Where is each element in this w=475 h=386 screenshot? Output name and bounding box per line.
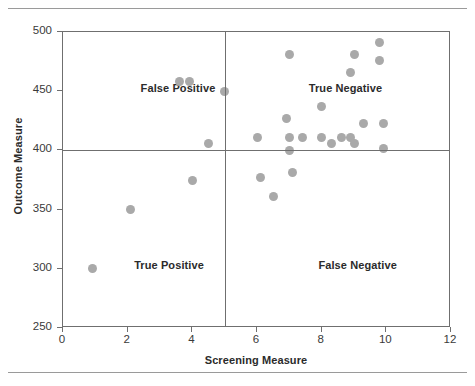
data-point — [126, 205, 135, 214]
y-tick-label-450: 450 — [0, 83, 52, 95]
quadrant-label-true-positive: True Positive — [134, 259, 204, 271]
data-point — [337, 133, 346, 142]
scatter-plot-figure: Outcome Measure Screening Measure 250300… — [0, 0, 475, 386]
x-tick-label-0: 0 — [42, 333, 82, 345]
x-tick-label-6: 6 — [236, 333, 276, 345]
x-tick-12 — [450, 327, 451, 332]
plot-area: False PositiveTrue NegativeTrue Positive… — [62, 31, 450, 327]
data-point — [375, 38, 384, 47]
top-divider-rule — [8, 8, 467, 9]
x-tick-8 — [321, 327, 322, 332]
data-point — [285, 50, 294, 59]
data-point — [350, 50, 359, 59]
data-point — [346, 68, 355, 77]
data-point — [88, 264, 97, 273]
data-point — [317, 102, 326, 111]
data-point — [327, 139, 336, 148]
data-point — [298, 133, 307, 142]
data-point — [288, 168, 297, 177]
quadrant-label-false-negative: False Negative — [318, 259, 396, 271]
data-point — [204, 139, 213, 148]
data-point — [359, 119, 368, 128]
x-tick-6 — [256, 327, 257, 332]
quadrant-label-true-negative: True Negative — [309, 82, 382, 94]
data-point — [188, 176, 197, 185]
x-tick-label-8: 8 — [301, 333, 341, 345]
x-tick-4 — [191, 327, 192, 332]
x-tick-label-10: 10 — [365, 333, 405, 345]
data-point — [282, 114, 291, 123]
y-tick-label-400: 400 — [0, 142, 52, 154]
x-tick-2 — [127, 327, 128, 332]
data-point — [185, 77, 194, 86]
y-tick-label-500: 500 — [0, 24, 52, 36]
x-tick-10 — [385, 327, 386, 332]
y-tick-label-350: 350 — [0, 202, 52, 214]
bottom-divider-rule — [8, 372, 467, 373]
x-axis-title: Screening Measure — [62, 354, 450, 366]
data-point — [350, 139, 359, 148]
vertical-threshold-line — [225, 32, 226, 326]
data-point — [317, 133, 326, 142]
data-point — [253, 133, 262, 142]
y-tick-label-250: 250 — [0, 320, 52, 332]
data-point — [375, 56, 384, 65]
x-tick-label-2: 2 — [107, 333, 147, 345]
y-axis-title: Outcome Measure — [12, 86, 24, 246]
data-point — [285, 133, 294, 142]
data-point — [256, 173, 265, 182]
x-tick-0 — [62, 327, 63, 332]
data-point — [379, 119, 388, 128]
x-tick-label-4: 4 — [171, 333, 211, 345]
data-point — [269, 192, 278, 201]
x-tick-label-12: 12 — [430, 333, 470, 345]
horizontal-threshold-line — [63, 150, 449, 151]
y-tick-label-300: 300 — [0, 261, 52, 273]
